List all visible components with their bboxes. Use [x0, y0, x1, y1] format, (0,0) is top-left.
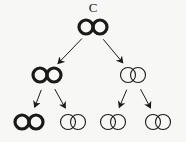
double-circle-node-l2-1 [15, 115, 43, 129]
double-circle-nodes [15, 20, 171, 130]
double-circle-node-l2-3 [101, 115, 126, 130]
circle-icon [156, 115, 171, 130]
circle-icon [15, 115, 29, 129]
double-circle-node-l2-4 [146, 115, 171, 130]
circle-icon [71, 115, 86, 130]
double-circle-node-root [79, 20, 107, 34]
arrows [35, 39, 151, 108]
lineage-diagram: C [0, 0, 186, 142]
arrow-icon [119, 90, 126, 108]
arrow-icon [103, 39, 123, 62]
double-circle-node-l1-right [121, 68, 146, 83]
circle-icon [29, 115, 43, 129]
arrow-icon [35, 90, 42, 107]
arrow-icon [141, 89, 151, 108]
circle-icon [93, 20, 107, 34]
circle-icon [33, 68, 47, 82]
arrow-icon [55, 89, 66, 108]
double-circle-node-l2-2 [61, 115, 86, 130]
double-circle-node-l1-left [33, 68, 61, 82]
diagram-label: C [89, 0, 98, 15]
circle-icon [131, 68, 146, 83]
circle-icon [79, 20, 93, 34]
circle-icon [47, 68, 61, 82]
arrow-icon [58, 39, 82, 64]
circle-icon [111, 115, 126, 130]
